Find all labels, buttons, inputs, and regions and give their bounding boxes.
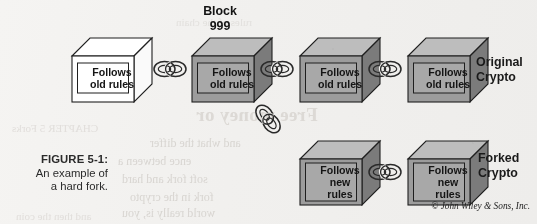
bleed-through-line-1: and what the differ [150, 136, 241, 151]
cube-label-plate [78, 63, 129, 93]
chain-link-icon-1 [152, 58, 188, 80]
branch-label-original-line-1: Original [476, 55, 523, 69]
block-marker-999: Block 999 [172, 4, 268, 33]
copyright-credit: © John Wiley & Sons, Inc. [431, 201, 530, 211]
bleed-through-line-5: world really is, you [122, 206, 215, 221]
block-cube-1: Follows old rules [70, 36, 154, 104]
cube-label-plate [414, 63, 465, 93]
bleed-through-line-side-1: CHAPTER 5 Forks [12, 122, 98, 134]
cube-label-plate [306, 63, 357, 93]
figure-caption-line-1: An example of [36, 167, 108, 179]
chain-link-icon-4 [367, 161, 403, 183]
branch-label-forked: Forked Crypto [478, 151, 519, 181]
branch-label-original: Original Crypto [476, 55, 523, 85]
cube-label-plate [306, 163, 357, 201]
bleed-through-line-3: soft fork and hard [122, 172, 208, 187]
chain-link-icon-fork [248, 98, 288, 140]
block-marker-line-2: 999 [210, 19, 231, 33]
cube-label-plate [198, 63, 249, 93]
cube-label-plate [414, 163, 465, 201]
bleed-through-line-side-2: and then the coin [16, 210, 91, 222]
bleed-through-line-4: fork in the crypto [130, 190, 214, 205]
figure-container: Free money or and what the differ ence b… [0, 0, 537, 224]
branch-label-forked-line-2: Crypto [478, 166, 518, 180]
branch-label-original-line-2: Crypto [476, 70, 516, 84]
block-marker-line-1: Block [203, 4, 237, 18]
figure-caption-line-2: a hard fork. [51, 180, 108, 192]
bleed-through-line-2: ence between a [118, 154, 191, 169]
figure-caption-label: FIGURE 5-1: [41, 153, 108, 165]
chain-link-icon-2 [259, 58, 295, 80]
figure-caption: FIGURE 5-1: An example of a hard fork. [4, 153, 108, 194]
branch-label-forked-line-1: Forked [478, 151, 519, 165]
chain-link-icon-3 [367, 58, 403, 80]
